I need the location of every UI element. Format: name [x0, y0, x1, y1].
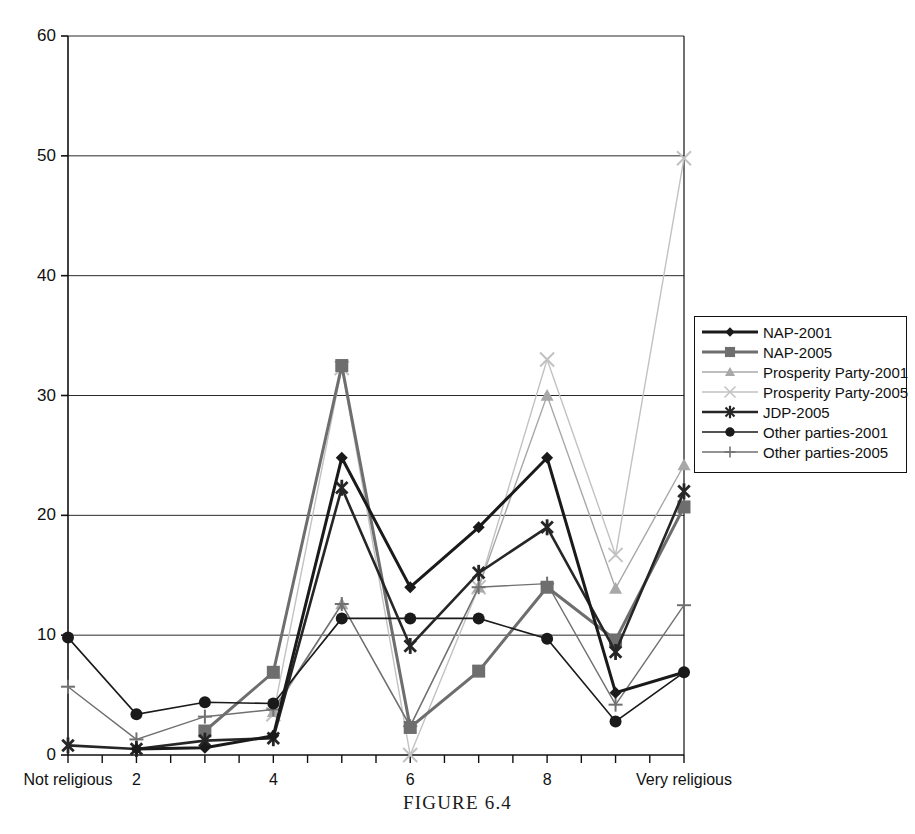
legend-key-icon	[700, 363, 760, 381]
data-point-marker	[725, 427, 734, 436]
data-point-marker	[725, 347, 735, 357]
data-point-marker	[61, 680, 75, 694]
data-point-marker	[404, 612, 416, 624]
legend-item-nap-2005: NAP-2005	[700, 342, 900, 362]
data-point-marker	[336, 480, 348, 496]
data-point-marker	[610, 715, 622, 727]
data-point-marker	[541, 389, 554, 401]
data-point-marker	[609, 548, 623, 562]
data-point-marker	[336, 612, 348, 624]
data-point-marker	[336, 452, 348, 464]
data-point-marker	[541, 633, 553, 645]
data-point-marker	[473, 612, 485, 624]
y-tick-label: 20	[10, 506, 56, 523]
figure-caption: FIGURE 6.4	[0, 792, 915, 814]
data-point-marker	[541, 519, 553, 535]
y-tick-label: 50	[10, 147, 56, 164]
data-point-marker	[609, 582, 622, 594]
x-tick-label: Very religious	[604, 772, 764, 788]
data-point-marker	[199, 696, 211, 708]
y-tick-label: 40	[10, 267, 56, 284]
data-point-marker	[404, 721, 417, 734]
legend-item-other-parties-2001: Other parties-2001	[700, 422, 900, 442]
data-point-marker	[267, 730, 279, 742]
legend-key-icon	[700, 403, 760, 421]
legend-key-icon	[700, 343, 760, 361]
y-tick-label: 0	[10, 746, 56, 763]
data-point-marker	[725, 447, 736, 458]
legend-item-prosperity-party-2005: Prosperity Party-2005	[700, 382, 900, 402]
legend-label: JDP-2005	[760, 405, 830, 420]
y-tick-label: 60	[10, 27, 56, 44]
y-tick-label: 10	[10, 626, 56, 643]
data-point-marker	[678, 459, 691, 471]
legend-label: Other parties-2001	[760, 425, 888, 440]
data-point-marker	[267, 697, 279, 709]
data-point-marker	[610, 644, 622, 660]
data-point-marker	[609, 698, 623, 712]
legend-key-icon	[700, 383, 760, 401]
figure-page: 0102030405060 Not religious2468Very reli…	[0, 0, 915, 834]
legend-label: Prosperity Party-2001	[760, 365, 908, 380]
y-tick-label: 30	[10, 387, 56, 404]
legend-key-icon	[700, 423, 760, 441]
data-point-marker	[198, 710, 212, 724]
data-point-marker	[678, 483, 690, 499]
series-line-other-parties-2001	[68, 618, 684, 721]
legend-key-icon	[700, 323, 760, 341]
data-point-marker	[677, 598, 691, 612]
legend-label: NAP-2001	[760, 325, 832, 340]
legend-key-icon	[700, 443, 760, 461]
data-point-marker	[267, 666, 280, 679]
data-point-marker	[541, 581, 554, 594]
data-point-marker	[472, 665, 485, 678]
legend-item-other-parties-2005: Other parties-2005	[700, 442, 900, 462]
legend-label: Prosperity Party-2005	[760, 385, 908, 400]
legend-item-jdp-2005: JDP-2005	[700, 402, 900, 422]
legend-label: Other parties-2005	[760, 445, 888, 460]
data-point-marker	[130, 708, 142, 720]
legend-label: NAP-2005	[760, 345, 832, 360]
data-point-marker	[62, 632, 74, 644]
legend-item-nap-2001: NAP-2001	[700, 322, 900, 342]
figure-caption-text: FIGURE 6.4	[403, 792, 512, 813]
data-point-marker	[335, 359, 348, 372]
chart-legend: NAP-2001NAP-2005Prosperity Party-2001Pro…	[694, 316, 907, 473]
legend-item-prosperity-party-2001: Prosperity Party-2001	[700, 362, 900, 382]
data-point-marker	[725, 327, 734, 336]
data-point-marker	[540, 353, 554, 367]
data-point-marker	[404, 638, 416, 654]
